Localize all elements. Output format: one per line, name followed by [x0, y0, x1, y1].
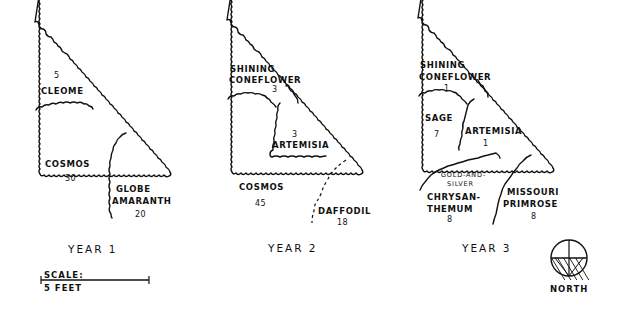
label-cosmos: COSMOS — [45, 159, 90, 169]
label-cosmos: COSMOS — [239, 182, 284, 192]
region-divider — [419, 90, 467, 104]
plan-year-2: SHINING CONEFLOWER 3 3 ARTEMISIA COSMOS … — [227, 0, 371, 254]
label-silver: SILVER — [447, 180, 474, 188]
garden-diagram: 5 CLEOME COSMOS 30 GLOBE AMARANTH 20 YEA… — [0, 0, 622, 310]
north-label: NORTH — [550, 284, 588, 294]
count-globe-amaranth: 20 — [135, 210, 146, 219]
region-divider — [459, 99, 474, 150]
label-themum: THEMUM — [427, 204, 473, 214]
label-shining: SHINING — [420, 60, 465, 70]
count-artemisia: 3 — [292, 130, 298, 139]
label-shining: SHINING — [230, 64, 275, 74]
label-artemisia: ARTEMISIA — [465, 126, 522, 136]
label-gold-and: GOLD-AND- — [441, 171, 486, 179]
label-sage: SAGE — [425, 113, 453, 123]
region-divider — [228, 93, 276, 107]
label-globe: GLOBE — [116, 184, 151, 194]
label-chrysan: CHRYSAN- — [427, 192, 481, 202]
count-coneflower: 1 — [444, 84, 450, 93]
scale-value: 5 FEET — [44, 283, 82, 293]
scale-label: SCALE: — [44, 270, 84, 280]
plan-title: YEAR 2 — [267, 242, 318, 254]
region-divider — [36, 102, 93, 110]
count-cosmos: 45 — [255, 199, 266, 208]
label-amaranth: AMARANTH — [112, 196, 172, 206]
count-cleome: 5 — [54, 71, 60, 80]
plan-title: YEAR 3 — [461, 242, 512, 254]
label-missouri: MISSOURI — [507, 187, 559, 197]
count-artemisia: 1 — [483, 139, 489, 148]
label-coneflower: CONEFLOWER — [229, 75, 301, 85]
count-primrose: 8 — [531, 212, 537, 221]
label-artemisia: ARTEMISIA — [272, 140, 329, 150]
plan-title: YEAR 1 — [67, 243, 118, 255]
label-coneflower: CONEFLOWER — [419, 72, 491, 82]
label-cleome: CLEOME — [41, 86, 84, 96]
scale-bar: SCALE: 5 FEET — [41, 270, 149, 293]
label-primrose: PRIMROSE — [503, 199, 558, 209]
count-cosmos: 30 — [65, 174, 76, 183]
plan-year-3: SHINING CONEFLOWER 1 SAGE 7 ARTEMISIA 1 … — [418, 0, 559, 254]
count-sage: 7 — [434, 130, 440, 139]
plan-year-1: 5 CLEOME COSMOS 30 GLOBE AMARANTH 20 YEA… — [35, 0, 172, 255]
count-coneflower: 3 — [272, 85, 278, 94]
count-chrysanthemum: 8 — [447, 215, 453, 224]
north-compass-icon: NORTH — [548, 240, 590, 294]
count-daffodil: 18 — [337, 218, 348, 227]
label-daffodil: DAFFODIL — [318, 206, 371, 216]
